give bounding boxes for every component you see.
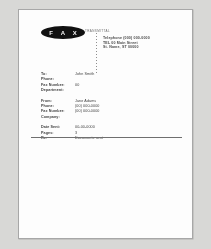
horizontal-separator-rule (31, 137, 182, 138)
field-row: Company: (19, 115, 192, 120)
field-label: Department: (41, 88, 64, 93)
fax-logo-text: F A X (46, 30, 80, 36)
scan-background: F A X TRANSMITTAL Telephone (000) 000-00… (0, 0, 211, 249)
fax-logo-badge: F A X (41, 26, 85, 39)
field-row: Department: (19, 88, 192, 93)
page-header: F A X TRANSMITTAL Telephone (000) 000-00… (19, 10, 192, 72)
logo-caption-text: TRANSMITTAL (85, 29, 110, 33)
fax-fields-zone: To: John Smith Phone: Fax Number: 00 Dep… (19, 72, 192, 146)
vertical-dotted-divider (96, 33, 97, 75)
message-body-blank-area (31, 140, 182, 232)
field-label: Company: (41, 115, 60, 120)
field-group-recipient: To: John Smith Phone: Fax Number: 00 Dep… (19, 72, 192, 94)
sender-address-block: Telephone (000) 000-0000 TEL 00 Main Str… (103, 36, 173, 50)
field-group-sender: From: Jane Adams Phone: (00) 000-0000 Fa… (19, 99, 192, 121)
address-line: St. Name, ST 00000 (103, 45, 173, 50)
fax-cover-page: F A X TRANSMITTAL Telephone (000) 000-00… (18, 9, 193, 239)
field-group-transmission: Date Sent: 00-00-0000 Pages: 3 Re: Docum… (19, 125, 192, 141)
